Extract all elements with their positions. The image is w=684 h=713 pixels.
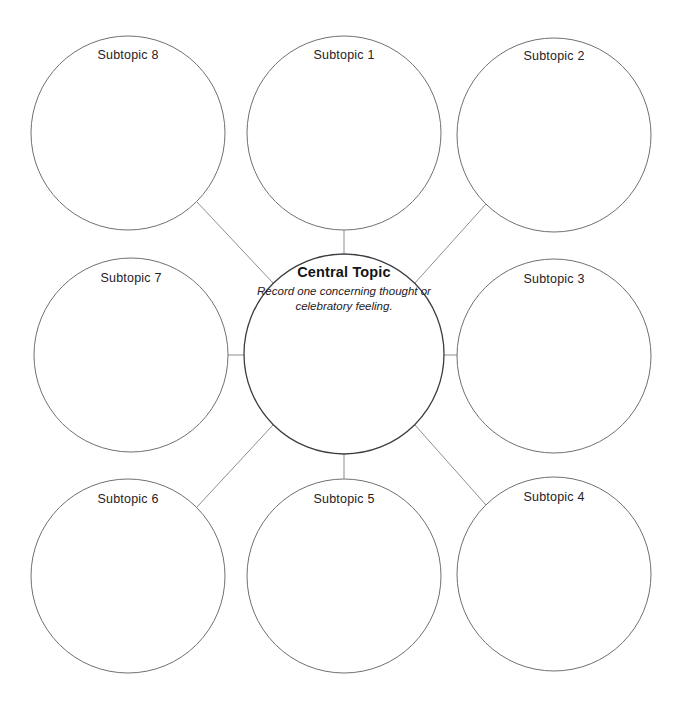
center-to-subtopic-4-connector [415,425,486,505]
subtopic-6-circle[interactable] [31,479,225,673]
subtopic-3-circle[interactable] [457,259,651,453]
subtopic-1-circle[interactable] [247,36,441,230]
central-topic-title: Central Topic [239,264,449,280]
subtopic-8-circle[interactable] [31,36,225,230]
subtopic-7-circle[interactable] [34,258,228,452]
diagram-canvas [0,0,684,713]
central-topic-subtitle: Record one concerning thought or celebra… [239,284,449,314]
subtopic-4-circle[interactable] [457,477,651,671]
subtopic-5-circle[interactable] [247,479,441,673]
central-topic-text-block: Central Topic Record one concerning thou… [239,264,449,314]
center-to-subtopic-6-connector [197,425,273,507]
subtopic-2-circle[interactable] [457,38,651,232]
bubble-map-diagram: Subtopic 8Subtopic 1Subtopic 2Subtopic 7… [0,0,684,713]
